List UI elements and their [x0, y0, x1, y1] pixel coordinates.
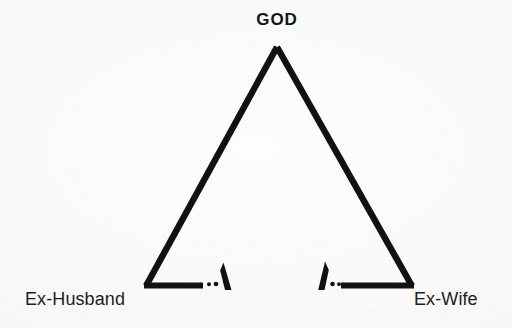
vertex-label-god: GOD	[256, 10, 297, 30]
break-crumb-dot	[207, 282, 211, 286]
broken-triangle-illustration	[0, 0, 512, 328]
break-crumb-dot	[214, 282, 219, 287]
break-crumb-dot	[330, 282, 335, 287]
break-spike-right-icon	[318, 262, 329, 291]
vertex-label-ex-husband: Ex-Husband	[25, 289, 125, 310]
break-crumb-dot	[337, 282, 341, 286]
edge-god-to-ex-wife	[277, 47, 412, 286]
break-spike-left-icon	[220, 263, 231, 291]
edge-god-to-ex-husband	[146, 47, 277, 286]
vertex-label-ex-wife: Ex-Wife	[414, 289, 478, 310]
diagram-canvas: GOD Ex-Husband Ex-Wife	[0, 0, 512, 328]
